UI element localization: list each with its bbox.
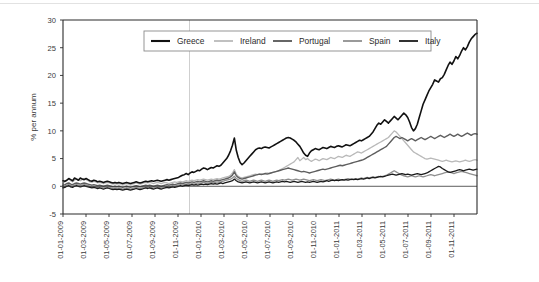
legend-label-italy: Italy: [425, 36, 441, 46]
line-chart: -5051015202530 01-01-200901-03-200901-05…: [0, 0, 539, 282]
x-tick-label: 01-03-2010: [217, 221, 226, 259]
x-tick-label: 01-07-2009: [125, 221, 134, 259]
x-tick-label: 01-03-2009: [79, 221, 88, 259]
y-tick-label: 20: [48, 71, 56, 80]
x-tick-label: 01-05-2010: [240, 221, 249, 259]
y-tick-label: 10: [48, 127, 56, 136]
x-tick-label: 01-05-2011: [378, 221, 387, 258]
chart-legend: GreeceIrelandPortugalSpainItaly: [144, 31, 441, 51]
x-tick-label: 01-05-2009: [102, 221, 111, 259]
y-tick-label: 0: [52, 182, 56, 191]
x-tick-label: 01-11-2011: [447, 221, 456, 258]
figure-container: -5051015202530 01-01-200901-03-200901-05…: [0, 0, 539, 282]
legend-label-portugal: Portugal: [299, 36, 330, 46]
figure-caption: [4, 272, 424, 280]
y-tick-label: 30: [48, 16, 56, 25]
legend-label-spain: Spain: [369, 36, 391, 46]
x-tick-label: 01-07-2010: [263, 221, 272, 259]
y-tick-label: 25: [48, 44, 56, 53]
legend-label-ireland: Ireland: [240, 36, 266, 46]
y-tick-label: 15: [48, 99, 56, 108]
x-tick-label: 01-01-2011: [332, 221, 341, 258]
x-axis-ticks: 01-01-200901-03-200901-05-200901-07-2009…: [56, 214, 456, 259]
x-tick-label: 01-09-2010: [286, 221, 295, 259]
x-tick-label: 01-09-2009: [148, 221, 157, 259]
x-tick-label: 01-11-2010: [309, 221, 318, 258]
x-tick-label: 01-01-2010: [194, 221, 203, 259]
x-tick-label: 01-03-2011: [355, 221, 364, 258]
y-axis-title: % per annum: [29, 93, 38, 141]
legend-label-greece: Greece: [177, 36, 205, 46]
y-tick-label: 5: [52, 154, 56, 163]
x-tick-label: 01-07-2011: [401, 221, 410, 258]
top-divider-rule: [0, 3, 539, 4]
y-axis-ticks: -5051015202530: [48, 16, 63, 219]
x-tick-label: 01-01-2009: [56, 221, 65, 259]
y-tick-label: -5: [49, 210, 56, 219]
x-tick-label: 01-09-2011: [424, 221, 433, 258]
x-tick-label: 01-11-2009: [171, 221, 180, 258]
